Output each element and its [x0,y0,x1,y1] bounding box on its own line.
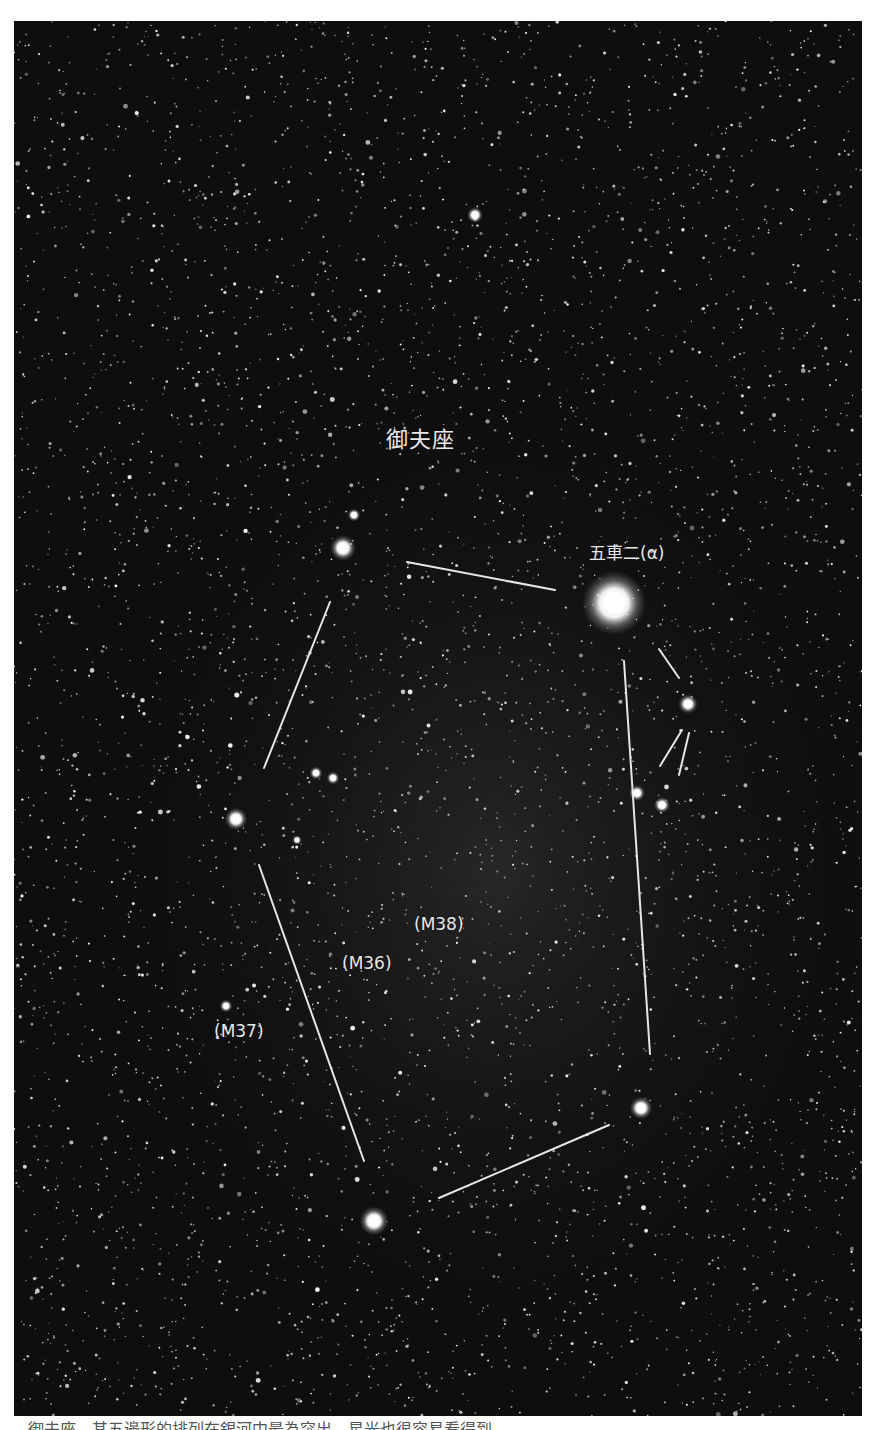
m37-label: (M37) [214,1021,264,1041]
constellation-label: 御夫座 [386,421,455,453]
m36-label: (M36) [342,953,392,973]
alpha-star-label: 五車二(α) [589,539,664,564]
night-sky-photo: 御夫座 五車二(α) (M38) (M36) (M37) [14,21,862,1416]
star-field [14,21,862,1416]
photo-caption: 御夫座，其五邊形的排列在銀河中最為突出，星光也很容易看得到。 [28,1421,848,1430]
m38-label: (M38) [414,914,464,934]
